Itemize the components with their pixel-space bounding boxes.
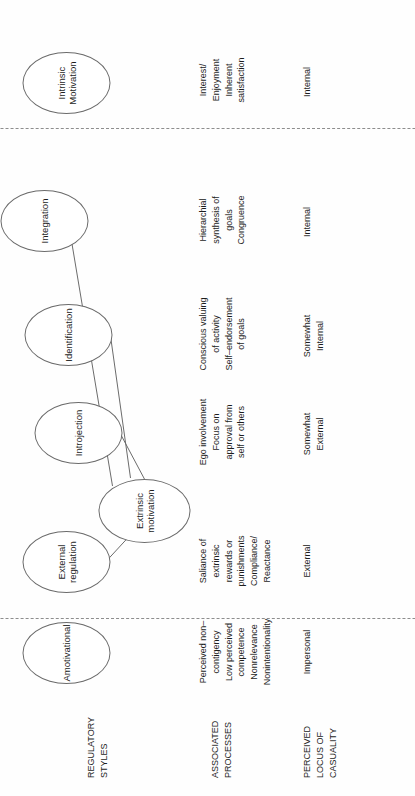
row-label-associated-processes: ASSOCIATED PROCESSES [208,721,234,778]
self-determination-continuum-diagram: REGULATORY STYLES ASSOCIATED PROCESSES P… [0,0,415,796]
processes-external-regulation: Saliance of extrinsic rewards or punishm… [196,507,273,615]
divider-amotivation-extrinsic [0,618,415,619]
node-introjection[interactable]: Introjection [34,402,122,464]
node-external-regulation[interactable]: External regulation [22,531,110,593]
locus-intrinsic-motivation: Internal [300,36,313,128]
processes-identification: Conscious valuing of activity Self–endor… [196,278,247,390]
column-identification: Identification Conscious valuing of acti… [0,258,415,368]
locus-identification: Somewhat Internal [300,290,326,382]
column-integration: Integration Hierarchial synthesis of goa… [0,144,415,254]
row-label-regulatory-styles: REGULATORY STYLES [84,717,110,778]
locus-integration: Internal [300,176,313,268]
processes-intrinsic-motivation: Interest/ Enjoyment Inherent satisfactio… [196,26,247,134]
node-amotivational[interactable]: Amotivational [22,622,110,684]
locus-introjection: Somewhat External [300,388,326,480]
processes-integration: Hierarchial synthesis of goals Congruenc… [196,166,247,274]
locus-external-regulation: External [300,515,313,607]
column-intrinsic-motivation: Intrinsic Motivation Interest/ Enjoyment… [0,12,415,122]
node-intrinsic-motivation[interactable]: Intrinsic Motivation [22,52,110,114]
node-integration[interactable]: Integration [0,190,88,252]
node-extrinsic-motivation[interactable]: Extrinsic motivation [98,479,190,543]
node-identification[interactable]: Identification [24,304,112,366]
column-external-regulation: External regulation Saliance of extrinsi… [0,483,415,593]
processes-introjection: Ego involvement Focus on approval from s… [196,378,247,486]
row-label-perceived-locus: PERCEIVED LOCUS OF CASUALITY [300,726,338,778]
figure-page: REGULATORY STYLES ASSOCIATED PROCESSES P… [0,0,415,796]
locus-amotivational: Impersonal [300,606,313,698]
divider-extrinsic-intrinsic [0,128,415,129]
